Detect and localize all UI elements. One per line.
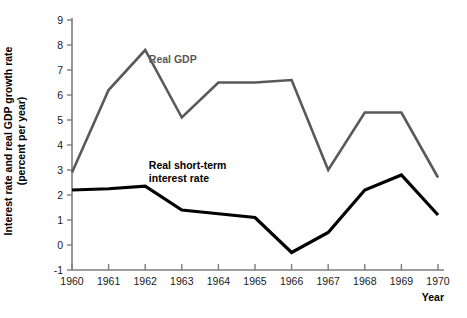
x-tick-label: 1962: [134, 275, 158, 287]
chart-container: Interest rate and real GDP growth rate (…: [0, 0, 467, 318]
x-tick-label: 1960: [60, 275, 84, 287]
y-tick-label: 9: [57, 14, 63, 26]
series-line-real-gdp: [72, 50, 438, 178]
x-tick-label: 1961: [97, 275, 121, 287]
x-tick-label: 1963: [170, 275, 194, 287]
axis-group: [67, 18, 444, 270]
x-axis-ticks: [72, 264, 438, 270]
series-label-interest-rate-line-1: Real short-term: [149, 159, 227, 171]
y-tick-label: 3: [57, 164, 63, 176]
y-tick-label: 5: [57, 114, 63, 126]
x-tick-label: 1969: [390, 275, 414, 287]
y-tick-label: 0: [57, 239, 63, 251]
series-label-interest-rate-line-2: interest rate: [149, 172, 209, 184]
x-tick-label: 1965: [243, 275, 267, 287]
x-tick-label: 1966: [280, 275, 304, 287]
x-tick-label: 1967: [317, 275, 341, 287]
y-tick-label: 6: [57, 89, 63, 101]
y-tick-label: -1: [54, 264, 63, 276]
y-tick-label: 4: [57, 139, 63, 151]
y-tick-label: 1: [57, 214, 63, 226]
x-axis-title: Year: [422, 291, 444, 303]
line-chart-plot: -10123456789 196019611962196319641965196…: [0, 0, 467, 318]
series-line-real-short-term-interest-rate: [72, 175, 438, 253]
x-tick-label: 1970: [426, 275, 450, 287]
y-axis-tick-labels: -10123456789: [54, 14, 64, 276]
y-tick-label: 2: [57, 189, 63, 201]
y-tick-label: 7: [57, 64, 63, 76]
x-axis-tick-labels: 1960196119621963196419651966196719681969…: [60, 275, 450, 287]
series-label-real-gdp: Real GDP: [149, 53, 197, 65]
x-tick-label: 1964: [207, 275, 231, 287]
y-tick-label: 8: [57, 39, 63, 51]
x-tick-label: 1968: [353, 275, 377, 287]
